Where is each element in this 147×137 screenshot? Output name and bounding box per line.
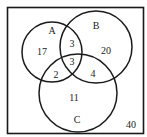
region-a-and-b-only: 3	[70, 38, 75, 49]
set-label-b: B	[93, 20, 100, 31]
venn-diagram: A B C 17 20 11 3 2 4 3 40	[0, 0, 147, 137]
set-label-c: C	[74, 114, 81, 125]
region-a-b-c: 3	[70, 56, 75, 67]
region-a-only: 17	[37, 46, 47, 57]
region-b-only: 20	[101, 45, 111, 56]
set-label-a: A	[48, 25, 56, 36]
universe-outside-count: 40	[126, 119, 136, 130]
region-a-and-c-only: 2	[54, 69, 59, 80]
region-b-and-c-only: 4	[91, 68, 96, 79]
region-c-only: 11	[69, 92, 79, 103]
